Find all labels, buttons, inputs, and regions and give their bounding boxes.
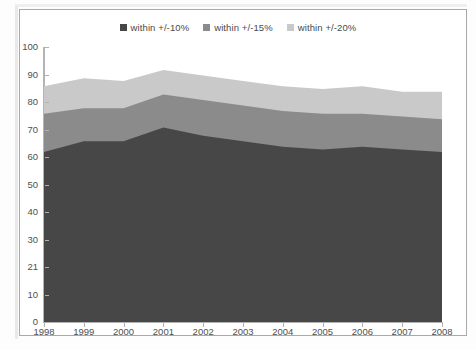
y-tick-mark [45, 102, 49, 103]
x-tick-mark [442, 323, 443, 327]
y-tick-label: 70 [8, 124, 38, 135]
x-tick-label: 2006 [342, 326, 382, 337]
plot-region [44, 48, 442, 322]
y-tick-mark [45, 185, 49, 186]
x-tick-label: 2003 [223, 326, 263, 337]
legend-swatch-icon [287, 24, 294, 31]
legend-item: within +/-20% [287, 22, 357, 33]
legend-item: within +/-10% [120, 22, 190, 33]
x-tick-mark [323, 323, 324, 327]
legend-label: within +/-20% [298, 22, 357, 33]
legend-label: within +/-15% [214, 22, 273, 33]
x-tick-label: 1998 [24, 326, 64, 337]
x-tick-mark [124, 323, 125, 327]
y-tick-mark [45, 267, 49, 268]
y-tick-mark [45, 322, 49, 323]
x-tick-label: 2007 [382, 326, 422, 337]
x-tick-mark [163, 323, 164, 327]
y-tick-label: 80 [8, 96, 38, 107]
legend-swatch-icon [120, 24, 127, 31]
x-tick-mark [203, 323, 204, 327]
x-tick-mark [362, 323, 363, 327]
x-tick-label: 2002 [183, 326, 223, 337]
y-tick-label: 60 [8, 151, 38, 162]
y-tick-label: 21 [8, 261, 38, 272]
y-tick-label: 30 [8, 234, 38, 245]
y-tick-label: 10 [8, 289, 38, 300]
x-tick-label: 2000 [104, 326, 144, 337]
x-tick-label: 1999 [64, 326, 104, 337]
x-tick-mark [283, 323, 284, 327]
y-tick-label: 50 [8, 179, 38, 190]
x-tick-mark [402, 323, 403, 327]
y-tick-mark [45, 157, 49, 158]
stacked-area-chart [44, 48, 442, 322]
x-tick-mark [84, 323, 85, 327]
legend-label: within +/-10% [131, 22, 190, 33]
y-tick-mark [45, 295, 49, 296]
legend-item: within +/-15% [203, 22, 273, 33]
area-band [44, 127, 442, 322]
y-tick-mark [45, 212, 49, 213]
x-tick-label: 2001 [143, 326, 183, 337]
x-tick-label: 2008 [422, 326, 462, 337]
y-axis-labels: 1009080706050403021100 [4, 0, 38, 349]
area-chart-svg [44, 48, 442, 322]
chart-legend: within +/-10% within +/-15% within +/-20… [0, 22, 476, 33]
y-tick-label: 100 [8, 41, 38, 52]
x-tick-label: 2004 [263, 326, 303, 337]
legend-swatch-icon [203, 24, 210, 31]
y-tick-mark [45, 75, 49, 76]
x-tick-mark [44, 323, 45, 327]
y-tick-label: 90 [8, 69, 38, 80]
y-tick-mark [45, 47, 49, 48]
x-tick-label: 2005 [303, 326, 343, 337]
chart-page: within +/-10% within +/-15% within +/-20… [0, 0, 476, 349]
scan-edge-top [15, 4, 467, 7]
y-tick-label: 40 [8, 206, 38, 217]
x-tick-mark [243, 323, 244, 327]
y-tick-mark [45, 240, 49, 241]
y-tick-mark [45, 130, 49, 131]
